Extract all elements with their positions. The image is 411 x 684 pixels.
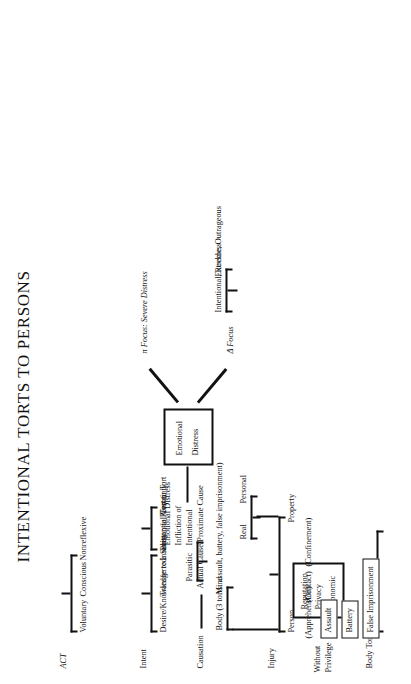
emotional-distress-box: Emotional Distress bbox=[163, 408, 213, 465]
person-child-body: Body (3 torts: assault, battery, false i… bbox=[215, 462, 224, 630]
arrow-to-pi-focus bbox=[148, 367, 178, 402]
root-label-intent: Intent bbox=[139, 649, 148, 668]
delta-focus-child-extreme-outrageous: Extreme, Outrageous bbox=[214, 206, 223, 277]
act-child-voluntary: Voluntary bbox=[79, 599, 88, 632]
mind-child-iied-line2: Infliction of bbox=[174, 505, 183, 545]
property-child-real: Real bbox=[239, 524, 248, 539]
person-riser bbox=[232, 628, 278, 630]
body-tort-box-battery: Battery bbox=[341, 600, 358, 638]
body-tort-note-false-imprisonment: (Confinement) bbox=[304, 517, 313, 566]
root-label-causation: Causation bbox=[196, 635, 205, 668]
intent-child-transferred: Transferred bbox=[159, 558, 168, 596]
act-child-conscious: Conscious bbox=[79, 561, 88, 596]
body-tort-label-assault: Assault bbox=[323, 607, 332, 632]
pi-focus-label: π Focus: Severe Distress bbox=[140, 271, 149, 353]
body-tort-box-assault: Assault bbox=[320, 599, 337, 638]
delta-focus-label: Δ Focus bbox=[226, 326, 235, 353]
body-tort-box-false-imprisonment: False Imprisonment bbox=[362, 558, 379, 638]
injury-child-property: Property bbox=[287, 493, 296, 522]
act-child-nonreflexive: Nonreflexive bbox=[79, 516, 88, 560]
root-label-act: ACT bbox=[59, 653, 68, 668]
root-label-without-privilege-line2: Privilege bbox=[324, 642, 333, 672]
root-label-without-privilege-line1: Without bbox=[313, 645, 322, 672]
iied-to-distress-connector bbox=[186, 466, 188, 502]
diagram-canvas: INTENTIONAL TORTS TO PERSONS ACT Volunta… bbox=[0, 0, 411, 684]
emotional-distress-line1: Emotional bbox=[174, 420, 183, 455]
body-tort-label-battery: Battery bbox=[344, 608, 353, 632]
person-child-mind: Mind bbox=[215, 576, 224, 594]
mind-child-iied-line1: Intentional bbox=[185, 509, 194, 545]
mind-child-iied-line3: Emotional Distress bbox=[163, 482, 172, 545]
mind-child-parasitic: Parasitic bbox=[185, 552, 194, 581]
body-tort-note-battery: (Contact) bbox=[304, 571, 313, 602]
emotional-distress-line2: Distress bbox=[190, 428, 199, 455]
page-title: INTENTIONAL TORTS TO PERSONS bbox=[14, 270, 32, 562]
property-child-personal: Personal bbox=[239, 474, 248, 503]
root-label-injury: Injury bbox=[267, 648, 276, 668]
body-tort-label-false-imprisonment: False Imprisonment bbox=[365, 566, 374, 632]
causation-connector bbox=[200, 594, 202, 628]
arrow-to-delta-focus bbox=[196, 367, 226, 402]
